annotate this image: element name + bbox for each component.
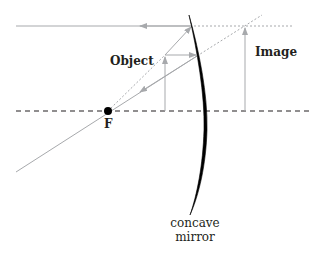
focal-point-dot: [104, 107, 112, 115]
mirror-label-line2: mirror: [170, 230, 220, 244]
diagram-canvas: [0, 0, 312, 253]
object-label: Object: [110, 54, 154, 68]
incident-ray-through-f: [165, 27, 191, 55]
mirror-label-line1: concave: [170, 216, 220, 230]
virtual-ray-diagonal: [197, 15, 262, 56]
focal-point-label: F: [104, 117, 113, 131]
image-label: Image: [255, 45, 297, 59]
concave-mirror: [189, 15, 207, 215]
mirror-label: concave mirror: [170, 216, 220, 244]
